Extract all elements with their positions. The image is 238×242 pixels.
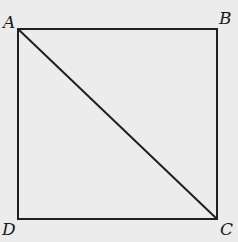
label-c: C	[220, 219, 233, 239]
geometry-figure: A B C D	[0, 0, 238, 242]
label-b: B	[218, 8, 232, 28]
label-a: A	[1, 12, 15, 32]
label-d: D	[1, 219, 16, 239]
diagonal-ac	[18, 29, 217, 219]
square-diagram: A B C D	[0, 0, 238, 242]
